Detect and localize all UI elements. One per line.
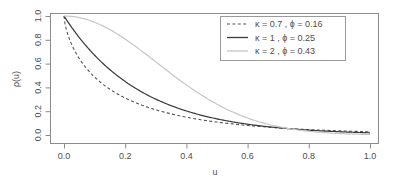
legend-label-2: κ = 1 , ϕ = 0.25: [255, 33, 315, 43]
chart-figure: 0.00.20.40.60.81.0 u 0.00.20.40.60.81.0 …: [0, 0, 402, 184]
x-tick-label: 0.6: [241, 151, 254, 161]
x-tick-label: 0.2: [119, 151, 132, 161]
plot-canvas: 0.00.20.40.60.81.0 u 0.00.20.40.60.81.0 …: [0, 0, 402, 184]
y-tick-label: 0.0: [33, 129, 43, 142]
legend-label-3: κ = 2 , ϕ = 0.43: [255, 46, 315, 56]
x-axis-title: u: [212, 167, 217, 177]
y-tick-label: 1.0: [33, 10, 43, 23]
x-tick-label: 0.0: [58, 151, 71, 161]
legend: κ = 0.7 , ϕ = 0.16κ = 1 , ϕ = 0.25κ = 2 …: [221, 17, 346, 61]
y-tick-label: 0.8: [33, 34, 43, 47]
y-tick-label: 0.6: [33, 57, 43, 70]
y-tick-label: 0.2: [33, 105, 43, 118]
legend-label-1: κ = 0.7 , ϕ = 0.16: [255, 19, 323, 29]
y-axis-title: ρ(u): [11, 71, 21, 87]
x-tick-label: 0.8: [303, 151, 316, 161]
y-tick-label: 0.4: [33, 81, 43, 94]
x-tick-label: 0.4: [180, 151, 193, 161]
x-tick-label: 1.0: [364, 151, 377, 161]
